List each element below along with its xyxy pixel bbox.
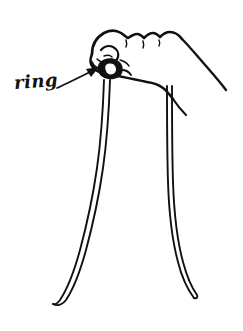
figure-root: ring [0,0,243,331]
ring-annotation-label: ring [13,71,58,92]
cord-left-strand-outer [53,80,104,304]
knuckle-crease-3 [159,40,160,46]
fist-top-outline [92,31,182,54]
ring-annotation-arrow [57,67,99,88]
cord-group [53,80,197,305]
knot-tail-right [122,70,131,75]
forearm-outline [182,39,226,90]
cord-right-strand-inner [172,86,197,298]
cord-right-strand-outer [167,86,194,298]
arrow-shaft [57,71,92,88]
fist-bottom-outline [118,76,173,99]
wrist-underside [173,99,186,115]
knuckle-crease-1 [126,40,127,47]
line-art-illustration [0,0,243,331]
thumb-fold-1 [104,55,112,57]
knuckle-crease-2 [143,41,144,48]
